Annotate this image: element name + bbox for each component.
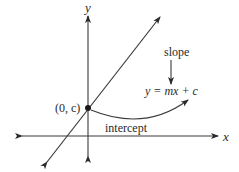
equation-label: y = mx + c xyxy=(144,84,199,98)
y-axis-label: y xyxy=(83,0,91,15)
slope-label: slope xyxy=(164,45,189,59)
slope-intercept-diagram: y x (0, c) slope y = mx + c intercept xyxy=(0,0,239,172)
point-label: (0, c) xyxy=(55,101,80,115)
intercept-arrow xyxy=(91,100,188,119)
intercept-point xyxy=(85,105,91,111)
x-axis-label: x xyxy=(222,129,229,144)
intercept-label: intercept xyxy=(105,121,148,135)
line-graph xyxy=(47,17,160,162)
